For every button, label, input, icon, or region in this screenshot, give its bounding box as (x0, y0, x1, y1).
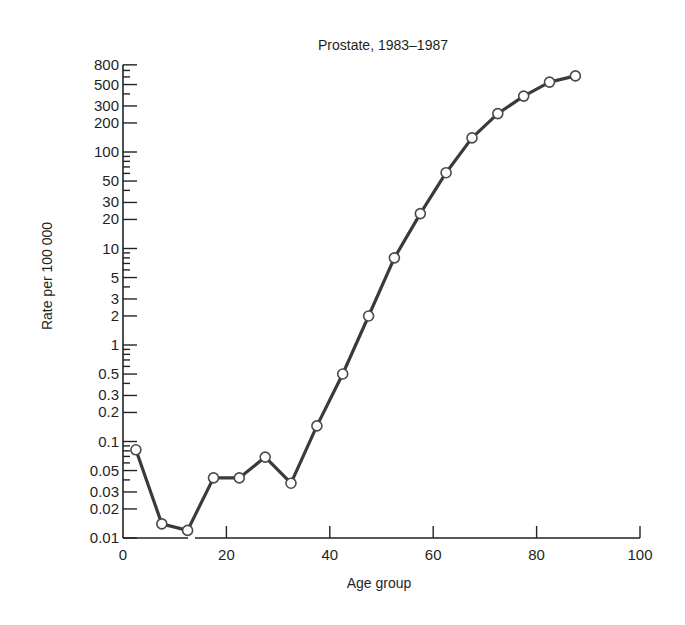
y-tick-label: 200 (94, 114, 119, 131)
data-point-marker: 27.5: 0.069 (260, 452, 270, 462)
y-tick-label: 20 (102, 210, 119, 227)
data-point-marker: 2.5: 0.082 (131, 445, 141, 455)
x-tick-label: 100 (627, 546, 652, 563)
data-point-marker: 32.5: 0.037 (286, 478, 296, 488)
y-tick-label: 5 (111, 269, 119, 286)
x-tick-label: 0 (119, 546, 127, 563)
y-tick-label: 800 (94, 56, 119, 73)
x-axis-label: Age group (347, 575, 412, 591)
line-chart: Prostate, 1983–1987 0.010.020.030.050.10… (0, 0, 685, 625)
y-tick-label: 0.02 (90, 500, 119, 517)
y-tick-label: 3 (111, 290, 119, 307)
y-tick-label: 300 (94, 97, 119, 114)
data-point-marker: 52.5: 8 (389, 253, 399, 263)
y-tick-label: 0.2 (98, 403, 119, 420)
x-tick-label: 80 (528, 546, 545, 563)
data-series: 2.5: 0.0827.5: 0.01412.5: 0.01217.5: 0.0… (131, 71, 581, 536)
x-axis: 020406080100 (119, 526, 653, 563)
data-point-marker: 72.5: 250 (493, 109, 503, 119)
data-point-marker: 22.5: 0.042 (234, 473, 244, 483)
data-point-marker: 17.5: 0.042 (209, 473, 219, 483)
data-point-marker: 47.5: 2 (364, 311, 374, 321)
y-tick-label: 1 (111, 336, 119, 353)
y-tick-label: 0.1 (98, 433, 119, 450)
y-tick-label: 0.5 (98, 365, 119, 382)
x-tick-label: 40 (321, 546, 338, 563)
x-tick-label: 20 (218, 546, 235, 563)
chart-title: Prostate, 1983–1987 (318, 37, 448, 53)
data-point-marker: 12.5: 0.012 (183, 525, 193, 535)
y-tick-label: 0.3 (98, 386, 119, 403)
y-axis: 0.010.020.030.050.10.20.30.5123510203050… (90, 56, 137, 546)
y-tick-label: 100 (94, 143, 119, 160)
data-point-marker: 77.5: 380 (519, 91, 529, 101)
data-point-marker: 57.5: 23 (415, 209, 425, 219)
x-tick-label: 60 (425, 546, 442, 563)
data-point-marker: 7.5: 0.014 (157, 519, 167, 529)
data-point-marker: 87.5: 615 (570, 71, 580, 81)
data-point-marker: 82.5: 530 (545, 77, 555, 87)
data-point-marker: 62.5: 61 (441, 168, 451, 178)
y-tick-label: 50 (102, 172, 119, 189)
y-tick-label: 2 (111, 307, 119, 324)
y-tick-label: 0.05 (90, 462, 119, 479)
y-tick-label: 0.03 (90, 483, 119, 500)
y-axis-label: Rate per 100 000 (39, 222, 55, 330)
y-tick-label: 0.01 (90, 529, 119, 546)
data-point-marker: 42.5: 0.5 (338, 369, 348, 379)
data-point-marker: 37.5: 0.145 (312, 421, 322, 431)
y-tick-label: 10 (102, 240, 119, 257)
y-tick-label: 500 (94, 76, 119, 93)
series-line (136, 76, 576, 531)
data-point-marker: 67.5: 140 (467, 133, 477, 143)
y-tick-label: 30 (102, 193, 119, 210)
